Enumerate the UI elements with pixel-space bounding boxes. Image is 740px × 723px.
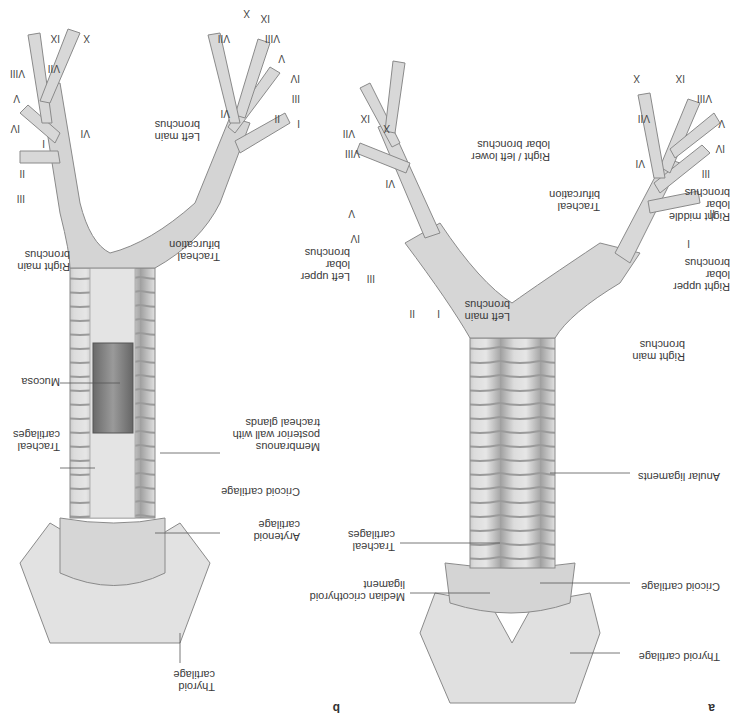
- seg-b-l-5: V: [13, 93, 20, 103]
- seg-b-l-9: IX: [51, 33, 60, 43]
- seg-a-l-7: VII: [343, 128, 355, 138]
- seg-b-r-9: IX: [261, 13, 270, 23]
- seg-b-l-3: III: [17, 193, 25, 203]
- label-membranous-wall: Membranous posterior wall with tracheal …: [220, 417, 320, 453]
- seg-b-l-6: VI: [81, 128, 90, 138]
- seg-b-r-6: VI: [221, 108, 230, 118]
- seg-b-r-4: IV: [291, 73, 300, 83]
- label-thyroid-cartilage-b: Thyroid cartilage: [145, 669, 215, 693]
- label-right-upper-lobar-bronchus: Right upper lobar bronchus: [660, 257, 730, 293]
- seg-a-l-5: V: [348, 208, 355, 218]
- seg-a-l-10: X: [383, 123, 390, 133]
- label-left-main-bronchus-a: Left main bronchus: [430, 299, 510, 323]
- seg-a-r-8: VIII: [697, 93, 712, 103]
- seg-b-l-2: II: [19, 168, 25, 178]
- label-tracheal-bifurcation-b: Tracheal bifurcation: [140, 239, 220, 263]
- seg-a-r-10: X: [633, 73, 640, 83]
- seg-b-r-8: VIII: [265, 33, 280, 43]
- seg-a-l-4: IV: [351, 233, 360, 243]
- seg-a-r-5: V: [718, 118, 725, 128]
- seg-a-l-2: II: [409, 308, 415, 318]
- seg-a-r-1: I: [687, 238, 690, 248]
- seg-b-l-8: VIII: [10, 68, 25, 78]
- seg-b-l-4: IV: [11, 123, 20, 133]
- seg-b-r-10: X: [243, 8, 250, 18]
- seg-b-r-2: II: [274, 113, 280, 123]
- label-anular-ligaments: Anular ligaments: [630, 471, 720, 483]
- label-lower-lobar-bronchus: Right / left lower lobar bronchus: [450, 139, 550, 163]
- seg-b-r-3: III: [292, 93, 300, 103]
- seg-a-r-6: VI: [636, 158, 645, 168]
- label-median-cricothyroid-ligament: Median cricothyroid ligament: [305, 579, 405, 603]
- seg-b-l-7: VII: [48, 63, 60, 73]
- label-left-main-bronchus-b: Left main bronchus: [130, 119, 200, 143]
- panel-b-letter: b: [333, 701, 340, 715]
- label-left-upper-lobar-bronchus: Left upper lobar bronchus: [280, 247, 350, 283]
- label-right-main-bronchus-a: Right main bronchus: [605, 339, 685, 363]
- label-thyroid-cartilage-a: Thyroid cartilage: [625, 651, 720, 663]
- seg-a-l-9: IX: [361, 113, 370, 123]
- label-tracheal-cartilages-b: Tracheal cartilages: [0, 429, 60, 453]
- seg-a-l-6: VI: [386, 178, 395, 188]
- seg-a-l-1: I: [437, 308, 440, 318]
- label-right-main-bronchus-b: Right main bronchus: [0, 249, 70, 273]
- label-right-middle-lobar-bronchus: Right middle lobar bronchus: [660, 187, 730, 223]
- label-arytenoid-cartilage: Arytenoid cartilage: [220, 519, 300, 543]
- seg-a-r-9: IX: [676, 73, 685, 83]
- seg-a-r-2: II: [709, 208, 715, 218]
- panel-a-letter: a: [708, 701, 715, 715]
- label-mucosa: Mucosa: [5, 376, 60, 388]
- seg-b-l-1: I: [42, 138, 45, 148]
- label-tracheal-cartilages-a: Tracheal cartilages: [315, 529, 395, 553]
- label-cricoid-cartilage-a: Cricoid cartilage: [630, 581, 720, 593]
- seg-a-l-3: III: [367, 273, 375, 283]
- seg-a-l-8: VIII: [345, 148, 360, 158]
- seg-b-r-7: VII: [218, 33, 230, 43]
- label-cricoid-cartilage-b: Cricoid cartilage: [220, 486, 300, 498]
- anatomy-figure: a Thyroid cartilage Cricoid cartilage Me…: [0, 0, 740, 723]
- seg-b-l-10: X: [83, 33, 90, 43]
- label-tracheal-bifurcation-a: Tracheal bifurcation: [520, 189, 600, 213]
- seg-a-r-3: III: [702, 168, 710, 178]
- seg-a-r-4: IV: [716, 143, 725, 153]
- seg-b-r-5: V: [278, 53, 285, 63]
- seg-a-r-7: VII: [638, 113, 650, 123]
- seg-b-r-1: I: [297, 118, 300, 128]
